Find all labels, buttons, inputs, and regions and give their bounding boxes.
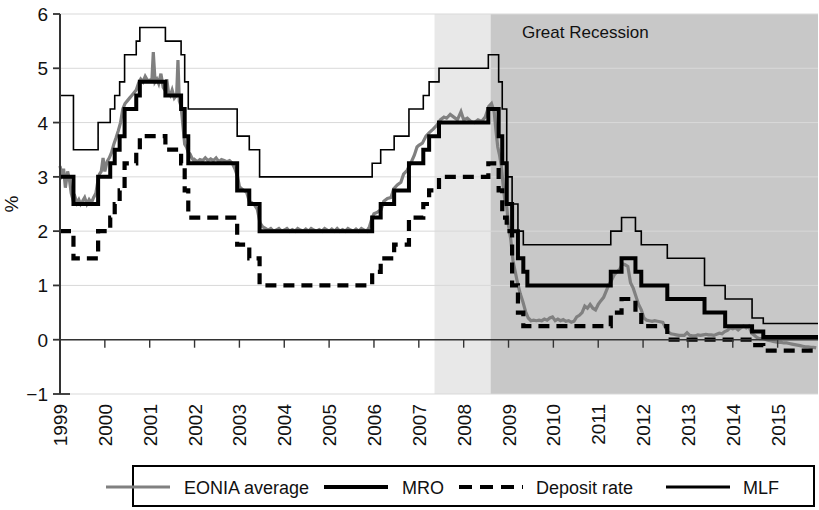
x-tick-label-2015: 2015 [768,404,789,446]
svg-text:2014: 2014 [723,404,744,447]
x-tick-label-2008: 2008 [454,404,475,446]
svg-text:2002: 2002 [185,404,206,446]
y-tick-label-1: 1 [37,275,48,296]
pre-crisis-band [435,14,491,394]
svg-text:2000: 2000 [95,404,116,446]
x-tick-label-2000: 2000 [95,404,116,446]
shaded-regions [435,14,818,394]
svg-text:2008: 2008 [454,404,475,446]
x-tick-label-2007: 2007 [409,404,430,446]
annotations: Great Recession [522,23,649,42]
svg-text:2001: 2001 [140,404,161,446]
x-tick-label-2004: 2004 [274,404,295,447]
x-tick-label-1999: 1999 [50,404,71,446]
svg-text:2007: 2007 [409,404,430,446]
y-tick-label-2: 2 [37,221,48,242]
x-tick-label-2012: 2012 [633,404,654,446]
x-tick-label-2003: 2003 [229,404,250,446]
x-tick-label-2002: 2002 [185,404,206,446]
svg-text:2013: 2013 [678,404,699,446]
legend-label-mlf: MLF [743,478,779,498]
svg-text:2005: 2005 [319,404,340,446]
great-recession-label: Great Recession [522,23,649,42]
x-tick-label-2005: 2005 [319,404,340,446]
y-axis-title: % [1,195,22,212]
y-axis-tick-labels: 6543210−1 [26,4,48,405]
y-axis-label: % [1,195,22,212]
x-tick-label-2006: 2006 [364,404,385,446]
legend-label-deposit-rate: Deposit rate [536,478,633,498]
x-axis-tick-labels: 1999200020012002200320042005200620072008… [50,404,789,447]
svg-text:2010: 2010 [543,404,564,446]
svg-text:1999: 1999 [50,404,71,446]
svg-text:2011: 2011 [588,404,609,445]
x-tick-label-2009: 2009 [499,404,520,446]
y-tick-label-6: 6 [37,4,48,25]
svg-text:%: % [1,195,22,212]
svg-text:2009: 2009 [499,404,520,446]
legend-label-eonia-average: EONIA average [184,478,309,498]
x-tick-label-2010: 2010 [543,404,564,446]
y-tick-label-4: 4 [37,113,48,134]
x-tick-label-2013: 2013 [678,404,699,446]
x-tick-label-2014: 2014 [723,404,744,447]
svg-text:2015: 2015 [768,404,789,446]
svg-text:2006: 2006 [364,404,385,446]
legend-label-mro: MRO [402,478,444,498]
y-tick-label-0: 0 [37,330,48,351]
interest-rate-chart: 6543210−1 199920002001200220032004200520… [0,0,819,510]
x-tick-label-2001: 2001 [140,404,161,446]
x-tick-label-2011: 2011 [588,404,609,445]
y-tick-label-3: 3 [37,167,48,188]
legend-box: EONIA averageMRODeposit rateMLF [106,466,814,506]
y-tick-label--1: −1 [26,384,48,405]
svg-text:2012: 2012 [633,404,654,446]
svg-text:2003: 2003 [229,404,250,446]
svg-text:2004: 2004 [274,404,295,447]
y-tick-label-5: 5 [37,58,48,79]
chart-figure: 6543210−1 199920002001200220032004200520… [0,0,819,510]
